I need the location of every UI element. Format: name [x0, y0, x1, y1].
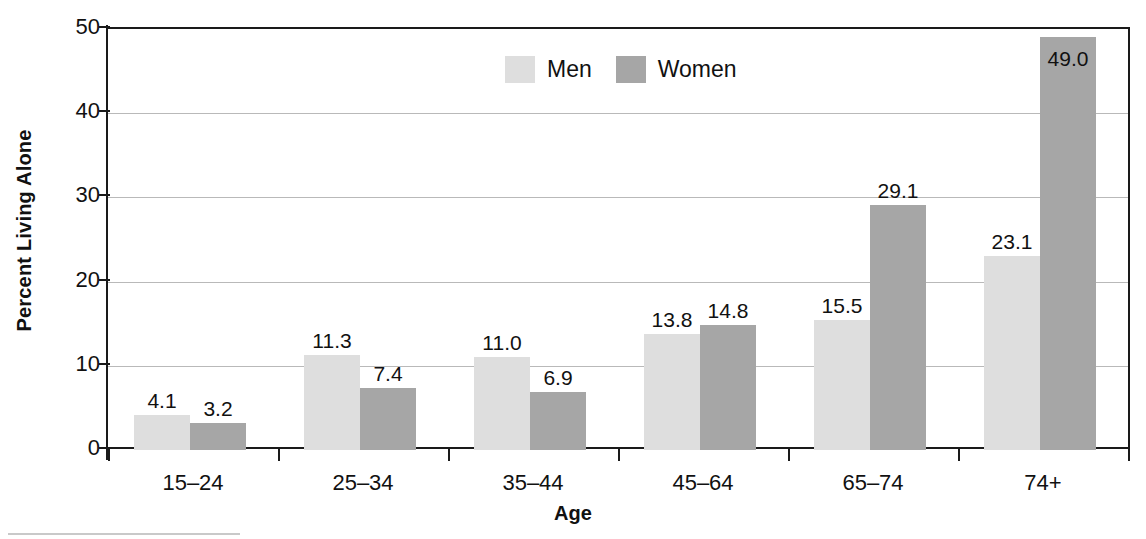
- plot-area: 4.13.211.37.411.06.913.814.815.529.123.1…: [108, 27, 1130, 450]
- bar-value-label: 11.0: [462, 331, 542, 355]
- bar-value-label: 11.3: [292, 329, 372, 353]
- bar-men[interactable]: [814, 320, 870, 451]
- bar-group: 4.13.2: [108, 29, 278, 450]
- x-category-label: 25–34: [278, 470, 448, 496]
- x-category-label: 74+: [958, 470, 1128, 496]
- bar-women[interactable]: [1040, 37, 1096, 450]
- bar-group: 11.06.9: [448, 29, 618, 450]
- bar-women[interactable]: [360, 388, 416, 450]
- x-tick-mark: [958, 449, 960, 461]
- bar-value-label: 49.0: [1028, 47, 1108, 71]
- bar-value-label: 6.9: [518, 366, 598, 390]
- y-tick-label: 40: [48, 98, 100, 124]
- legend: MenWomen: [505, 56, 737, 83]
- bar-women[interactable]: [530, 392, 586, 450]
- bar-group: 15.529.1: [788, 29, 958, 450]
- bar-value-label: 3.2: [178, 397, 258, 421]
- bar-group: 13.814.8: [618, 29, 788, 450]
- bar-women[interactable]: [870, 205, 926, 450]
- bar-women[interactable]: [190, 423, 246, 450]
- bar-women[interactable]: [700, 325, 756, 450]
- x-tick-mark: [448, 449, 450, 461]
- legend-item[interactable]: Women: [616, 56, 737, 83]
- legend-label: Women: [658, 56, 737, 83]
- x-tick-mark: [788, 449, 790, 461]
- x-category-label: 45–64: [618, 470, 788, 496]
- x-tick-mark: [278, 449, 280, 461]
- y-axis-title-text: Percent Living Alone: [13, 129, 36, 331]
- y-tick-label: 50: [48, 14, 100, 40]
- y-axis-ticks: 01020304050: [42, 0, 100, 539]
- bar-chart-figure: Percent Living Alone 01020304050 4.13.21…: [0, 0, 1146, 539]
- legend-item[interactable]: Men: [505, 56, 592, 83]
- bar-group: 11.37.4: [278, 29, 448, 450]
- legend-swatch: [505, 56, 535, 83]
- bar-group: 23.149.0: [958, 29, 1128, 450]
- y-tick-label: 0: [48, 435, 100, 461]
- x-axis-title: Age: [0, 502, 1146, 525]
- x-tick-mark: [108, 449, 110, 461]
- bar-value-label: 7.4: [348, 362, 428, 386]
- y-tick-label: 10: [48, 351, 100, 377]
- bar-men[interactable]: [984, 256, 1040, 451]
- legend-swatch: [616, 56, 646, 83]
- y-tick-label: 30: [48, 182, 100, 208]
- bar-men[interactable]: [644, 334, 700, 450]
- x-tick-mark: [618, 449, 620, 461]
- x-category-label: 65–74: [788, 470, 958, 496]
- x-category-label: 15–24: [108, 470, 278, 496]
- y-axis-title: Percent Living Alone: [2, 0, 46, 460]
- legend-label: Men: [547, 56, 592, 83]
- bottom-rule: [8, 533, 240, 535]
- x-tick-mark: [1128, 449, 1130, 461]
- y-tick-label: 20: [48, 267, 100, 293]
- bar-value-label: 14.8: [688, 299, 768, 323]
- x-category-label: 35–44: [448, 470, 618, 496]
- bar-value-label: 29.1: [858, 179, 938, 203]
